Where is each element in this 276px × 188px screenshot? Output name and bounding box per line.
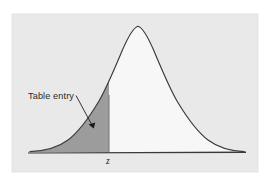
normal-curve-figure: Table entry z: [0, 0, 276, 188]
figure-canvas: Table entry z: [0, 0, 276, 188]
z-axis-label: z: [105, 156, 110, 166]
table-entry-label: Table entry: [28, 91, 74, 101]
